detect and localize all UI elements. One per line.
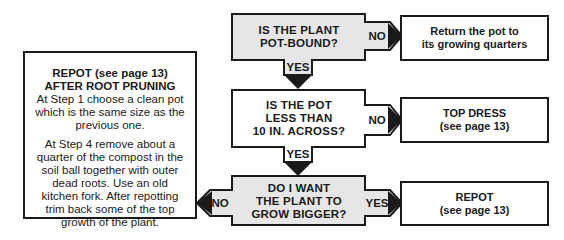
- result-1-line-2: its growing quarters: [422, 38, 528, 51]
- decision-2-line-1: IS THE POT: [240, 99, 358, 112]
- left-box-title-2: AFTER ROOT PRUNING: [45, 80, 176, 93]
- result-top-dress: TOP DRESS (see page 13): [400, 97, 549, 143]
- left-box-title-1: REPOT (see page 13): [52, 67, 168, 80]
- result-return-pot: Return the pot to its growing quarters: [400, 15, 549, 61]
- decision-3-text: DO I WANT THE PLANT TO GROW BIGGER?: [240, 182, 358, 221]
- result-2-sub: (see page 13): [440, 120, 510, 133]
- result-3-sub: (see page 13): [440, 204, 510, 217]
- decision-3-line-2: THE PLANT TO: [240, 195, 358, 208]
- result-2-title: TOP DRESS: [443, 107, 506, 120]
- arrow-down-2-icon: [284, 162, 312, 176]
- left-box-paragraph-1: At Step 1 choose a clean pot which is th…: [33, 93, 187, 132]
- decision-1-text: IS THE PLANT POT-BOUND?: [240, 24, 358, 50]
- decision-1-no-label: NO: [364, 30, 390, 43]
- decision-3-line-3: GROW BIGGER?: [240, 208, 358, 221]
- decision-2-text: IS THE POT LESS THAN 10 IN. ACROSS?: [240, 99, 358, 138]
- decision-1-line-1: IS THE PLANT: [240, 24, 358, 37]
- repot-after-root-pruning-box: REPOT (see page 13) AFTER ROOT PRUNING A…: [23, 51, 197, 219]
- decision-3-yes-label: YES: [364, 197, 390, 210]
- decision-1-line-2: POT-BOUND?: [240, 37, 358, 50]
- decision-2-yes-label: YES: [284, 148, 312, 161]
- decision-3-no-label: NO: [208, 197, 232, 210]
- decision-2-no-label: NO: [364, 114, 390, 127]
- result-repot: REPOT (see page 13): [400, 181, 549, 226]
- result-3-title: REPOT: [456, 191, 494, 204]
- arrow-down-1-icon: [284, 75, 312, 89]
- decision-1-yes-label: YES: [284, 61, 312, 74]
- left-box-paragraph-2: At Step 4 remove about a quarter of the …: [33, 138, 187, 229]
- decision-3-line-1: DO I WANT: [240, 182, 358, 195]
- result-1-line-1: Return the pot to: [430, 25, 519, 38]
- decision-2-line-3: 10 IN. ACROSS?: [240, 125, 358, 138]
- decision-2-line-2: LESS THAN: [240, 112, 358, 125]
